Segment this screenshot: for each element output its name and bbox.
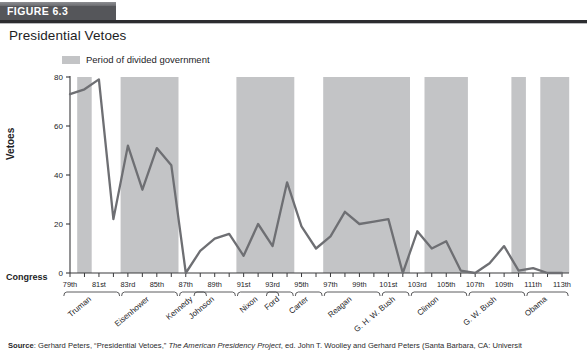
y-axis-tick-label: 40 — [54, 171, 63, 180]
vetoes-line-chart: 020406080 79th81st83rd85th87th89th91st93… — [0, 0, 587, 340]
chart-plot-area: Vetoes Congress 020406080 79th81st83rd85… — [0, 0, 587, 355]
president-bracket — [411, 292, 467, 296]
x-axis-tick-label: 99th — [352, 280, 366, 289]
x-axis-tick-label: 107th — [466, 280, 485, 289]
source-note: Source: Gerhard Peters, “Presidential Ve… — [8, 341, 587, 350]
source-prefix: Source — [8, 341, 34, 350]
y-axis-tick-label: 80 — [54, 73, 63, 82]
president-label: Eisenhower — [113, 294, 151, 328]
y-axis-tick-label: 20 — [54, 220, 63, 229]
president-bracket — [469, 292, 525, 296]
y-axis-tick-label: 60 — [54, 122, 63, 131]
president-label: Obama — [523, 294, 549, 318]
president-label: Carter — [287, 294, 310, 315]
divided-government-band — [323, 77, 410, 273]
president-label: Ford — [263, 295, 281, 312]
president-bracket — [324, 292, 380, 296]
x-axis-tick-label: 91st — [237, 280, 251, 289]
president-bracket — [194, 292, 235, 296]
x-axis-tick-label: 105th — [437, 280, 456, 289]
president-label: G. W. Bush — [461, 295, 498, 328]
x-axis-tick-label: 111th — [524, 280, 541, 289]
president-bracket — [237, 292, 278, 296]
x-axis: 79th81st83rd85th87th89th91st93rd95th97th… — [63, 273, 571, 289]
president-label: Truman — [66, 295, 93, 319]
x-axis-tick-label: 79th — [63, 280, 77, 289]
president-bracket — [382, 292, 409, 296]
source-italic-title: The American Presidency Project — [168, 341, 280, 350]
x-axis-tick-label: 95th — [294, 280, 308, 289]
president-label: Reagan — [326, 295, 353, 320]
president-bracket — [64, 292, 120, 296]
x-axis-tick-label: 83rd — [120, 280, 135, 289]
y-axis-tick-label: 0 — [59, 269, 64, 278]
divided-government-band — [236, 77, 294, 273]
president-label: G. H. W. Bush — [352, 295, 397, 334]
divided-government-band — [511, 77, 526, 273]
president-bracket — [527, 292, 568, 296]
president-brackets: TrumanEisenhowerKennedyJohnsonNixonFordC… — [64, 292, 568, 334]
president-bracket — [122, 292, 178, 296]
y-axis: 020406080 — [54, 73, 70, 278]
x-axis-tick-label: 109th — [495, 280, 514, 289]
source-text-1: : Gerhard Peters, “Presidential Vetoes,” — [34, 341, 169, 350]
source-text-2: , ed. John T. Woolley and Gerhard Peters… — [281, 341, 522, 350]
divided-government-band — [540, 77, 569, 273]
x-axis-tick-label: 81st — [92, 280, 106, 289]
x-axis-tick-label: 87th — [179, 280, 193, 289]
x-axis-tick-label: 85th — [150, 280, 164, 289]
x-axis-tick-label: 97th — [323, 280, 337, 289]
president-bracket — [180, 292, 207, 296]
president-label: Clinton — [415, 295, 440, 318]
president-bracket — [295, 292, 322, 296]
divided-government-band — [77, 77, 92, 273]
president-bracket — [266, 292, 293, 296]
x-axis-tick-label: 93rd — [265, 280, 280, 289]
x-axis-tick-label: 101st — [379, 280, 397, 289]
president-label: Nixon — [238, 295, 259, 315]
x-axis-tick-label: 103rd — [408, 280, 427, 289]
divided-government-band — [121, 77, 179, 273]
x-axis-tick-label: 113th — [553, 280, 571, 289]
x-axis-tick-label: 89th — [208, 280, 222, 289]
